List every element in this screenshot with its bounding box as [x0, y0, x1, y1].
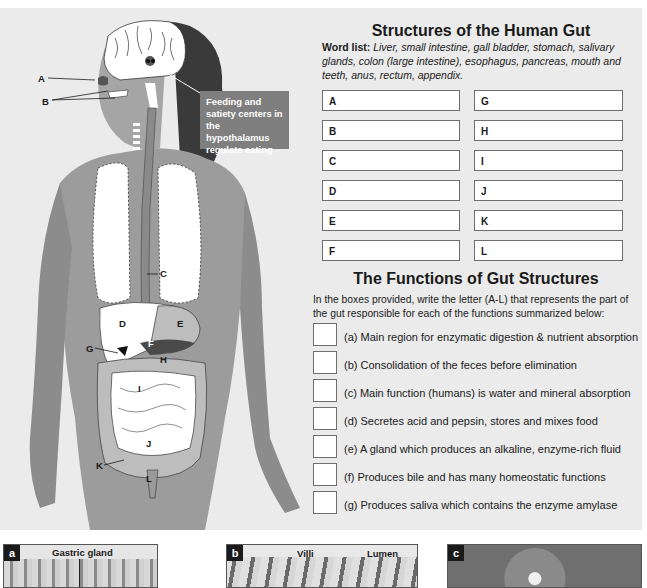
label-c: C [160, 268, 167, 279]
answer-box-c[interactable]: C [322, 150, 460, 171]
function-item-a: (a) Main region for enzymatic digestion … [344, 330, 638, 344]
functions-title: The Functions of Gut Structures [313, 270, 639, 288]
function-answer-box-c[interactable] [313, 379, 337, 402]
function-answer-box-g[interactable] [313, 491, 337, 514]
answer-box-e[interactable]: E [322, 210, 460, 231]
label-j: J [146, 438, 151, 449]
structures-title: Structures of the Human Gut [322, 22, 640, 40]
word-list-label: Word list: [322, 41, 370, 53]
function-answer-box-a[interactable] [313, 323, 337, 346]
micrograph-gastric-gland: a Gastric gland [3, 544, 158, 588]
function-item-e: (e) A gland which produces an alkaline, … [344, 442, 621, 456]
answer-box-f[interactable]: F [322, 240, 460, 261]
micrograph-tag-b: b [227, 545, 243, 561]
label-g: G [86, 343, 93, 354]
function-item-b: (b) Consolidation of the feces before el… [344, 358, 577, 372]
answer-box-i[interactable]: I [474, 150, 623, 171]
function-answer-box-d[interactable] [313, 407, 337, 430]
label-l: L [146, 473, 152, 484]
label-a: A [38, 73, 45, 84]
label-k: K [96, 460, 103, 471]
function-answer-box-b[interactable] [313, 351, 337, 374]
anatomy-figure: Feeding and satiety centers in the hypot… [0, 8, 330, 530]
label-b: B [42, 96, 49, 107]
answer-box-b[interactable]: B [322, 120, 460, 141]
function-item-f: (f) Produces bile and has many homeostat… [344, 470, 606, 484]
label-h: H [160, 354, 167, 365]
hypothalamus-callout: Feeding and satiety centers in the hypot… [200, 91, 289, 149]
word-list: Word list: Liver, small intestine, gall … [322, 40, 640, 82]
answer-box-d[interactable]: D [322, 180, 460, 201]
micrograph-caption-lumen: Lumen [367, 548, 398, 559]
function-item-g: (g) Produces saliva which contains the e… [344, 498, 617, 512]
answer-box-k[interactable]: K [474, 210, 623, 231]
function-item-d: (d) Secretes acid and pepsin, stores and… [344, 414, 598, 428]
answer-box-j[interactable]: J [474, 180, 623, 201]
micrograph-tag-a: a [4, 545, 20, 561]
label-d: D [119, 318, 126, 329]
micrograph-tag-c: c [448, 545, 464, 561]
answer-box-a[interactable]: A [322, 90, 460, 111]
micrograph-liver-tissue: c [447, 544, 642, 588]
function-answer-box-f[interactable] [313, 463, 337, 486]
answer-box-g[interactable]: G [474, 90, 623, 111]
answer-box-h[interactable]: H [474, 120, 623, 141]
label-i: I [138, 383, 141, 394]
label-f: F [148, 338, 154, 349]
micrograph-caption-gastric: Gastric gland [52, 547, 113, 558]
micrograph-villi: b Villi Lumen [226, 544, 418, 588]
function-answer-box-e[interactable] [313, 435, 337, 458]
function-item-c: (c) Main function (humans) is water and … [344, 386, 631, 400]
answer-box-l[interactable]: L [474, 240, 623, 261]
micrograph-caption-villi: Villi [297, 548, 314, 559]
functions-instructions: In the boxes provided, write the letter … [313, 293, 639, 321]
label-e: E [177, 318, 183, 329]
